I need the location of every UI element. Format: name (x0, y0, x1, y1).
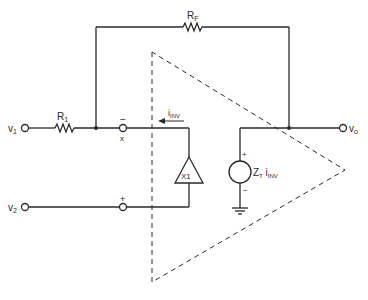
ground-icon (232, 208, 248, 214)
vo-terminal (340, 125, 347, 132)
dependent-voltage-source (229, 161, 251, 183)
source-minus-label: − (243, 186, 248, 195)
noninverting-input-terminal (120, 204, 127, 211)
r1-resistor (55, 124, 74, 132)
vo-label: vo (349, 123, 358, 135)
v2-label: v2 (8, 202, 17, 214)
input-junction-dot (94, 126, 98, 130)
r1-label: R1 (57, 111, 68, 123)
iinv-arrow-head (158, 118, 165, 124)
rf-resistor (183, 23, 202, 31)
v2-terminal (22, 204, 29, 211)
v1-terminal (22, 125, 29, 132)
circuit-diagram: v1 R1 RF − x + iINV X1 + − ZT iINV v2 vo (0, 0, 368, 300)
output-junction-dot (287, 126, 291, 130)
rf-label: RF (187, 10, 199, 22)
source-plus-label: + (242, 150, 247, 159)
node-x-label: x (120, 134, 124, 143)
inverting-sign-label: − (120, 114, 126, 125)
source-value-label: ZT iINV (253, 167, 278, 179)
inverting-input-terminal (120, 125, 127, 132)
amplifier-boundary-triangle (152, 52, 345, 282)
v1-label: v1 (8, 123, 17, 135)
x1-buffer-label: X1 (181, 172, 191, 181)
iinv-label: iINV (168, 108, 180, 119)
noninverting-sign-label: + (120, 194, 125, 204)
